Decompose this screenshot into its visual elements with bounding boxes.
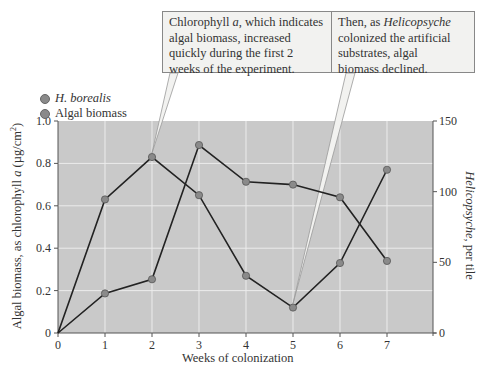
y-left-tick-label: 0 — [45, 326, 51, 340]
data-point — [289, 304, 296, 311]
data-point — [383, 257, 390, 264]
legend-item-h-borealis: H. borealis — [40, 91, 127, 106]
data-point — [101, 290, 108, 297]
y-left-tick-label: 0.6 — [36, 199, 51, 213]
x-axis-label: Weeks of colonization — [182, 351, 293, 366]
y-axis-left-label: Algal biomass, as chlorophyll a (µg/cm2) — [9, 121, 25, 331]
y-left-tick-label: 0.2 — [36, 284, 51, 298]
algal-biomass-marker-icon — [40, 109, 50, 119]
data-point — [336, 259, 343, 266]
x-tick-label: 0 — [55, 338, 61, 352]
data-point — [336, 194, 343, 201]
x-tick-label: 4 — [243, 338, 249, 352]
h-borealis-marker-icon — [40, 94, 50, 104]
y-left-tick-label: 0.4 — [36, 241, 51, 255]
data-point — [383, 166, 390, 173]
data-point — [148, 276, 155, 283]
y-left-tick-label: 0.8 — [36, 156, 51, 170]
data-point — [195, 192, 202, 199]
y-right-tick-label: 100 — [439, 185, 457, 199]
data-point — [148, 153, 155, 160]
x-tick-label: 2 — [149, 338, 155, 352]
legend-item-algal-biomass: Algal biomass — [40, 106, 127, 121]
y-right-tick-label: 0 — [439, 326, 445, 340]
x-tick-label: 1 — [102, 338, 108, 352]
data-point — [242, 178, 249, 185]
legend: H. borealis Algal biomass — [40, 91, 127, 121]
data-point — [289, 181, 296, 188]
y-right-tick-label: 150 — [439, 114, 457, 128]
x-tick-label: 7 — [384, 338, 390, 352]
data-point — [101, 196, 108, 203]
data-point — [195, 141, 202, 148]
x-tick-label: 3 — [196, 338, 202, 352]
data-point — [242, 272, 249, 279]
y-right-tick-label: 50 — [439, 255, 451, 269]
x-tick-label: 6 — [337, 338, 343, 352]
y-axis-right-label: Helicopsyche, per tile — [462, 161, 477, 291]
callout-chlorophyll: Chlorophyll a, which indicates algal bio… — [162, 11, 332, 73]
callout-helicopsyche: Then, as Helicopsyche colonized the arti… — [331, 11, 475, 73]
x-tick-label: 5 — [290, 338, 296, 352]
